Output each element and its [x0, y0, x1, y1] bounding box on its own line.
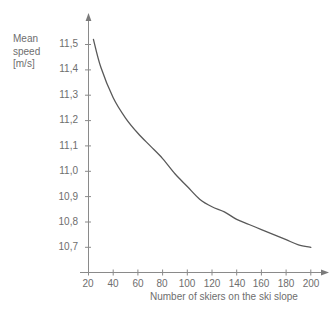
y-tick-label: 10,8	[44, 217, 78, 227]
y-tick-label: 11,1	[44, 141, 78, 151]
x-tick-label: 180	[272, 279, 300, 289]
y-tick-label: 11,0	[44, 166, 78, 176]
y-tick-label: 10,7	[44, 242, 78, 252]
y-tick-label: 11,2	[44, 115, 78, 125]
x-tick-label: 100	[173, 279, 201, 289]
x-axis-title-text: Number of skiers on the ski slope	[150, 291, 298, 302]
y-tick-label: 10,9	[44, 192, 78, 202]
x-tick-label: 160	[247, 279, 275, 289]
x-tick-label: 20	[74, 279, 102, 289]
x-axis-arrow-icon	[321, 270, 329, 276]
x-tick-label: 40	[99, 279, 127, 289]
chart-figure: Mean speed [m/s]	[0, 0, 336, 315]
x-tick-label: 120	[198, 279, 226, 289]
x-axis-title: Number of skiers on the ski slope	[150, 291, 330, 303]
y-tick-label: 11,5	[44, 39, 78, 49]
y-tick-label: 11,4	[44, 64, 78, 74]
x-tick-label: 80	[148, 279, 176, 289]
y-axis-arrow-icon	[86, 13, 92, 21]
y-tick-label: 11,3	[44, 90, 78, 100]
data-series-line	[93, 39, 310, 247]
x-tick-label: 200	[297, 279, 325, 289]
axis-lines	[80, 13, 329, 275]
